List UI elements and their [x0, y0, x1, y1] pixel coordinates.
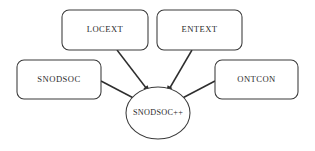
edge-ontcon-line [184, 81, 216, 98]
node-ontcon-label: ONTCON [237, 74, 276, 84]
node-locext-label: LOCEXT [87, 24, 124, 34]
edge-snodsoc-to-center [101, 81, 133, 98]
diagram-graphic: LOCEXT ENTEXT SNODSOC ONTCON SNODSOC++ [0, 0, 315, 151]
edge-locext-line [117, 50, 147, 89]
node-snodsocpp-label: SNODSOC++ [133, 108, 183, 117]
edge-ontcon-to-center [184, 81, 216, 98]
node-entext-label: ENTEXT [181, 24, 217, 34]
diagram-canvas: LOCEXT ENTEXT SNODSOC ONTCON SNODSOC++ [0, 0, 315, 151]
node-locext[interactable]: LOCEXT [62, 10, 148, 50]
node-snodsocpp[interactable]: SNODSOC++ [126, 87, 190, 139]
node-snodsoc[interactable]: SNODSOC [17, 60, 101, 99]
node-ontcon[interactable]: ONTCON [215, 60, 298, 99]
edge-locext-to-center [117, 50, 151, 94]
edge-entext-to-center [166, 50, 192, 94]
node-entext[interactable]: ENTEXT [157, 10, 242, 50]
node-snodsoc-label: SNODSOC [37, 74, 80, 84]
edge-snodsoc-line [101, 81, 133, 98]
edge-entext-line [170, 50, 193, 89]
